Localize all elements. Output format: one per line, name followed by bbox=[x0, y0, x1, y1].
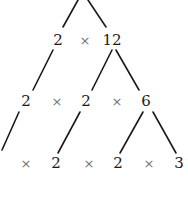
factor-number: 2 bbox=[51, 156, 61, 171]
factor-number: 2 bbox=[21, 94, 31, 109]
times-operator: × bbox=[112, 95, 123, 108]
branch-line bbox=[2, 112, 19, 150]
times-operator: × bbox=[84, 157, 95, 170]
factor-number: 2 bbox=[53, 33, 63, 48]
branch-line bbox=[88, 0, 106, 27]
times-operator: × bbox=[144, 157, 155, 170]
branch-line bbox=[92, 50, 112, 90]
branch-line bbox=[120, 112, 143, 153]
times-operator: × bbox=[52, 95, 63, 108]
branch-line bbox=[153, 112, 176, 153]
factor-number: 2 bbox=[81, 94, 91, 109]
factor-number: 6 bbox=[141, 94, 151, 109]
branch-line bbox=[58, 112, 80, 153]
factor-number: 3 bbox=[174, 156, 184, 171]
times-operator: × bbox=[21, 157, 32, 170]
branch-line bbox=[33, 50, 53, 90]
branch-line bbox=[63, 0, 78, 27]
factor-tree: 2×122×2×6×2×2×3 bbox=[0, 0, 188, 199]
factor-number: 2 bbox=[113, 156, 123, 171]
times-operator: × bbox=[80, 34, 91, 47]
branch-line bbox=[116, 50, 139, 90]
factor-number: 12 bbox=[102, 33, 121, 48]
